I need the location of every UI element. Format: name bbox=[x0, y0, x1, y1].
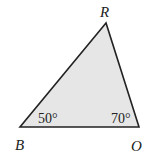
triangle-diagram: R B O 50° 70° bbox=[0, 0, 149, 160]
angle-label-o: 70° bbox=[111, 111, 131, 126]
angle-label-b: 50° bbox=[38, 111, 58, 126]
vertex-label-o: O bbox=[131, 138, 142, 154]
vertex-label-b: B bbox=[15, 137, 24, 153]
vertex-label-r: R bbox=[99, 4, 109, 20]
